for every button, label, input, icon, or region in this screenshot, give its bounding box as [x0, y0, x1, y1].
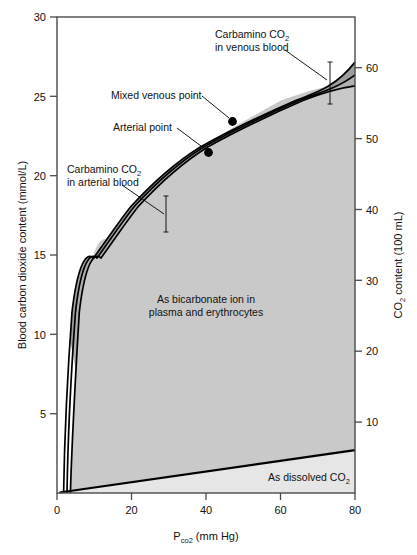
y2-tick-30: 30 [366, 275, 378, 287]
annotation-bicarbonate-region: As bicarbonate ion in plasma and erythro… [149, 293, 263, 318]
y-tick-15: 15 [34, 249, 46, 261]
y2-tick-40: 40 [366, 204, 378, 216]
x-tick-80: 80 [349, 504, 361, 516]
y2-tick-10: 10 [366, 416, 378, 428]
bicarbonate-line1-text: As bicarbonate ion in [157, 293, 255, 305]
y2-tick-60: 60 [366, 62, 378, 74]
annotation-carbamino-arterial: Carbamino CO2 in arterial blood [67, 163, 141, 188]
y-tick-5: 5 [40, 408, 46, 420]
y2-tick-50: 50 [366, 133, 378, 145]
arterial-point-label: Arterial point [113, 121, 172, 133]
mixed-venous-point-marker[interactable] [228, 117, 237, 126]
y-tick-20: 20 [34, 170, 46, 182]
y-tick-10: 10 [34, 329, 46, 341]
carbamino-arterial-line2-text: in arterial blood [67, 176, 139, 188]
y-axis-title: Blood carbon dioxide content (mmol/L) [16, 161, 28, 349]
arterial-point-marker[interactable] [204, 148, 213, 157]
y2-tick-20: 20 [366, 345, 378, 357]
carbamino-arterial-line1-text: Carbamino CO [67, 163, 137, 175]
carbamino-venous-line1-text: Carbamino CO [215, 28, 285, 40]
x-tick-20: 20 [125, 504, 137, 516]
y-tick-30: 30 [34, 11, 46, 23]
mixed-venous-point-label: Mixed venous point [111, 89, 202, 101]
annotation-carbamino-venous: Carbamino CO2 in venous blood [215, 28, 289, 53]
x-tick-60: 60 [274, 504, 286, 516]
x-tick-0: 0 [54, 504, 60, 516]
co2-dissociation-chart: 30 25 20 15 10 5 0 20 40 60 80 10 20 30 … [0, 0, 417, 555]
y-tick-25: 25 [34, 91, 46, 103]
x-tick-40: 40 [200, 504, 212, 516]
figure-container: 30 25 20 15 10 5 0 20 40 60 80 10 20 30 … [0, 0, 417, 555]
bicarbonate-line2-text: plasma and erythrocytes [149, 306, 263, 318]
page-edge-artifact [402, 430, 416, 550]
carbamino-venous-line2-text: in venous blood [215, 41, 289, 53]
